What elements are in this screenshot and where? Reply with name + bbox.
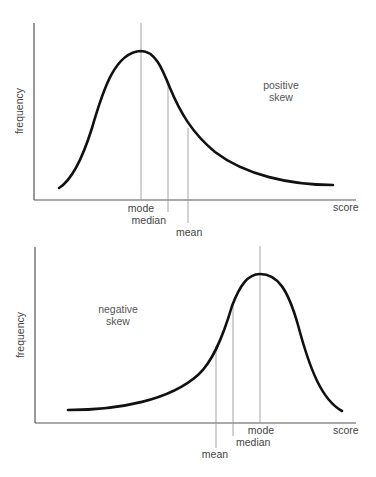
negative-skew-chart: frequency score negative skew mode media…: [14, 246, 359, 460]
x-axis-label: score: [333, 201, 359, 213]
skew-annotation-line2: skew: [269, 91, 293, 103]
mode-label: mode: [248, 424, 274, 436]
skew-annotation-line2: skew: [106, 315, 130, 327]
y-axis-label: frequency: [13, 87, 25, 134]
median-label: median: [132, 214, 167, 226]
distribution-curve: [59, 51, 333, 188]
positive-skew-chart: frequency score positive skew mode media…: [13, 23, 359, 238]
distribution-curve: [68, 274, 342, 411]
median-label: median: [236, 436, 271, 448]
x-axis-label: score: [333, 424, 359, 436]
mode-label: mode: [128, 202, 154, 214]
skew-annotation-line1: positive: [263, 79, 299, 91]
y-axis-label: frequency: [14, 311, 26, 358]
mean-label: mean: [202, 448, 228, 460]
mean-label: mean: [176, 226, 202, 238]
skew-annotation-line1: negative: [98, 303, 138, 315]
skew-diagrams: frequency score positive skew mode media…: [0, 0, 376, 477]
